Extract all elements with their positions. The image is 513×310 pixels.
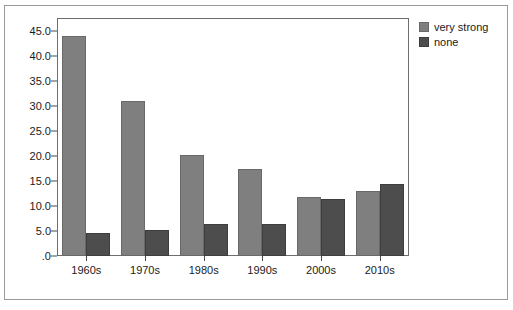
y-tick-label: 25.0 (0, 125, 51, 137)
x-tick-label: 2010s (365, 264, 395, 276)
y-tick-label: .0 (0, 250, 51, 262)
x-tick-mark (321, 256, 322, 261)
bar (321, 199, 345, 256)
bar (62, 36, 86, 256)
x-tick-mark (380, 256, 381, 261)
bar (238, 169, 262, 256)
bar-cluster (57, 18, 116, 256)
legend-label: none (434, 36, 458, 48)
y-tick-label: 35.0 (0, 75, 51, 87)
bar-cluster (116, 18, 175, 256)
bar (145, 230, 169, 256)
bar (262, 224, 286, 256)
legend-label: very strong (434, 21, 488, 33)
x-tick-label: 2000s (306, 264, 336, 276)
y-tick-label: 20.0 (0, 150, 51, 162)
y-tick-label: 10.0 (0, 200, 51, 212)
x-tick-mark (262, 256, 263, 261)
y-tick-label: 40.0 (0, 50, 51, 62)
x-tick-label: 1970s (130, 264, 160, 276)
y-tick-label: 5.0 (0, 225, 51, 237)
y-tick-label: 45.0 (0, 25, 51, 37)
legend-swatch-icon (419, 37, 429, 47)
bar (180, 155, 204, 256)
y-tick-label: 15.0 (0, 175, 51, 187)
bar-cluster (350, 18, 409, 256)
legend-item: none (419, 36, 488, 48)
x-tick-mark (204, 256, 205, 261)
bar (380, 184, 404, 256)
legend-item: very strong (419, 21, 488, 33)
y-tick-label: 30.0 (0, 100, 51, 112)
bar-cluster (292, 18, 351, 256)
x-tick-label: 1960s (71, 264, 101, 276)
x-tick-mark (86, 256, 87, 261)
bar (86, 233, 110, 256)
bar (356, 191, 380, 256)
x-tick-label: 1990s (247, 264, 277, 276)
legend-swatch-icon (419, 22, 429, 32)
chart-figure: .05.010.015.020.025.030.035.040.045.0 19… (0, 0, 513, 310)
bar-cluster (233, 18, 292, 256)
bars-layer (57, 18, 409, 256)
chart-legend: very strongnone (419, 21, 488, 48)
x-tick-label: 1980s (189, 264, 219, 276)
x-tick-mark (145, 256, 146, 261)
bar-cluster (174, 18, 233, 256)
bar (297, 197, 321, 256)
bar (204, 224, 228, 256)
bar (121, 101, 145, 256)
